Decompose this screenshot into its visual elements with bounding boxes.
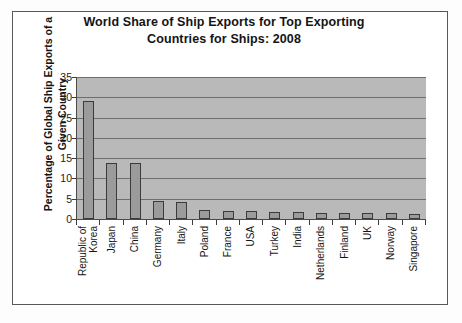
chart-figure: World Share of Ship Exports for Top Expo… [0, 0, 462, 323]
x-axis-category-label-line: Norway [385, 226, 396, 260]
x-axis-category-label: UK [361, 226, 372, 240]
x-axis-category-label-line: Poland [198, 226, 209, 257]
x-label-slot: UK [355, 226, 378, 302]
y-axis-tick-label: 10 [46, 172, 72, 184]
x-axis-tick-marks [76, 220, 425, 225]
bar [106, 163, 117, 219]
x-axis-category-label-line: USA [245, 226, 256, 247]
x-axis-category-label-line: Netherlands [315, 226, 326, 280]
x-axis-category-label: Germany [152, 226, 163, 267]
x-axis-category-label: Italy [175, 226, 186, 244]
x-axis-tick-mark [378, 220, 379, 225]
x-label-slot: Germany [146, 226, 169, 302]
y-axis-tick-label: 25 [46, 112, 72, 124]
x-axis-category-label: USA [245, 226, 256, 247]
x-axis-category-label: India [292, 226, 303, 248]
bar-slot [333, 77, 356, 219]
x-axis-category-label-line: Singapore [408, 226, 419, 272]
x-axis-tick-mark [76, 220, 77, 225]
x-axis-tick-mark [425, 220, 426, 225]
bar-slot [193, 77, 216, 219]
x-label-slot: Japan [99, 226, 122, 302]
plot-area [76, 77, 426, 220]
x-axis-category-label-line: UK [361, 226, 372, 240]
x-axis-category-label-line: Finland [338, 226, 349, 259]
bar [153, 201, 164, 219]
y-axis-tick-label: 5 [46, 193, 72, 205]
bar-slot [379, 77, 402, 219]
x-label-slot: France [216, 226, 239, 302]
bar-series [77, 77, 426, 219]
x-axis-category-label-line: Republic of [77, 226, 88, 276]
bar-slot [147, 77, 170, 219]
bar [362, 213, 373, 219]
x-axis-category-label-line: Italy [175, 226, 186, 244]
bar-slot [170, 77, 193, 219]
x-axis-tick-mark [402, 220, 403, 225]
y-axis-tick-label: 30 [46, 91, 72, 103]
x-axis-category-label: Singapore [408, 226, 419, 272]
x-axis-category-label: Republic ofKorea [77, 226, 99, 276]
bar-slot [356, 77, 379, 219]
x-axis-category-label-line: China [129, 226, 140, 252]
y-axis-tick-label: 20 [46, 132, 72, 144]
x-axis-category-label: France [222, 226, 233, 257]
x-axis-category-label-line: Japan [105, 226, 116, 253]
x-axis-category-label-line: Turkey [268, 226, 279, 256]
x-label-slot: Turkey [262, 226, 285, 302]
x-axis-category-label: Finland [338, 226, 349, 259]
x-label-slot: Italy [169, 226, 192, 302]
x-axis-tick-mark [262, 220, 263, 225]
bar [339, 213, 350, 219]
x-axis-tick-mark [99, 220, 100, 225]
x-axis-tick-mark [169, 220, 170, 225]
x-label-slot: India [285, 226, 308, 302]
chart-title-line-1: World Share of Ship Exports for Top Expo… [48, 14, 400, 31]
bar [386, 213, 397, 219]
x-label-slot: Republic ofKorea [76, 226, 99, 302]
x-axis-category-label: Netherlands [315, 226, 326, 280]
x-axis-category-label-line: Korea [88, 226, 99, 276]
bar-slot [310, 77, 333, 219]
bar [223, 211, 234, 219]
bar-slot [124, 77, 147, 219]
x-axis-category-labels: Republic ofKoreaJapanChinaGermanyItalyPo… [76, 226, 425, 302]
x-axis-tick-mark [123, 220, 124, 225]
x-axis-category-label: China [129, 226, 140, 252]
x-axis-category-label-line: France [222, 226, 233, 257]
y-axis-tick-label: 15 [46, 152, 72, 164]
x-axis-tick-mark [216, 220, 217, 225]
x-axis-tick-mark [146, 220, 147, 225]
bar-slot [100, 77, 123, 219]
bar-slot [77, 77, 100, 219]
x-label-slot: Netherlands [309, 226, 332, 302]
x-axis-tick-mark [285, 220, 286, 225]
bar-slot [403, 77, 426, 219]
x-axis-tick-mark [192, 220, 193, 225]
x-axis-tick-mark [332, 220, 333, 225]
x-label-slot: Singapore [402, 226, 425, 302]
bar [269, 212, 280, 219]
bar [130, 163, 141, 219]
x-axis-tick-mark [309, 220, 310, 225]
y-axis-tick-label: 35 [46, 71, 72, 83]
bar [176, 202, 187, 219]
bar-slot [240, 77, 263, 219]
x-axis-tick-mark [355, 220, 356, 225]
x-axis-category-label: Norway [385, 226, 396, 260]
chart-title: World Share of Ship Exports for Top Expo… [48, 14, 400, 48]
x-axis-category-label-line: India [292, 226, 303, 248]
x-axis-category-label: Turkey [268, 226, 279, 256]
bar-slot [286, 77, 309, 219]
bar [316, 213, 327, 219]
bar [246, 211, 257, 219]
y-axis-tick-labels: 05101520253035 [42, 77, 72, 219]
x-axis-category-label-line: Germany [152, 226, 163, 267]
x-label-slot: Finland [332, 226, 355, 302]
x-label-slot: China [123, 226, 146, 302]
x-label-slot: Norway [378, 226, 401, 302]
bar [199, 210, 210, 219]
x-label-slot: Poland [192, 226, 215, 302]
bar [409, 214, 420, 219]
bar [293, 212, 304, 219]
